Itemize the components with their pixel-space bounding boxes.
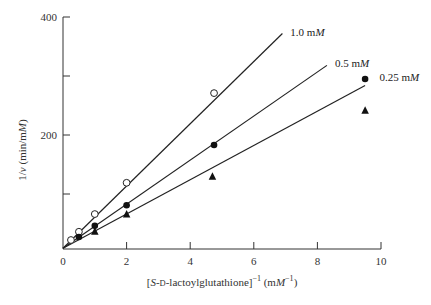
filled-circle-marker (362, 76, 369, 83)
x-tick-label: 10 (376, 255, 388, 267)
open-circle-marker (123, 179, 130, 186)
fit-lines (63, 34, 365, 249)
filled-circle-marker (76, 234, 83, 241)
open-circle-marker (211, 90, 218, 97)
x-tick-label: 2 (124, 255, 130, 267)
open-circle-marker (91, 211, 98, 218)
y-axis-title: 1/v (min/mM) (16, 119, 29, 181)
axes: 2004000246810 (41, 11, 388, 267)
series-label: 1.0 mM (290, 26, 325, 38)
x-tick-label: 4 (187, 255, 193, 267)
filled-circle-marker (123, 202, 130, 209)
x-tick-label: 6 (251, 255, 257, 267)
y-tick-label: 200 (41, 129, 58, 141)
x-axis-title: [S-D-lactoylglutathione]−1 (mM−1) (147, 274, 298, 289)
fit-line (63, 65, 327, 248)
data-points (68, 76, 369, 244)
fit-line (63, 85, 365, 248)
filled-triangle-marker (123, 210, 131, 218)
open-circle-marker (68, 237, 75, 244)
filled-circle-marker (211, 142, 218, 149)
x-tick-label: 0 (60, 255, 66, 267)
filled-triangle-marker (209, 172, 217, 180)
y-tick-label: 400 (41, 11, 58, 23)
series-label: 0.25 mM (379, 71, 420, 83)
series-labels: 1.0 mM0.5 mM0.25 mM (290, 26, 420, 83)
x-tick-label: 8 (315, 255, 321, 267)
filled-triangle-marker (361, 106, 369, 114)
lineweaver-burk-plot: 2004000246810 1.0 mM0.5 mM0.25 mM [S-D-l… (0, 0, 431, 305)
series-label: 0.5 mM (335, 57, 370, 69)
